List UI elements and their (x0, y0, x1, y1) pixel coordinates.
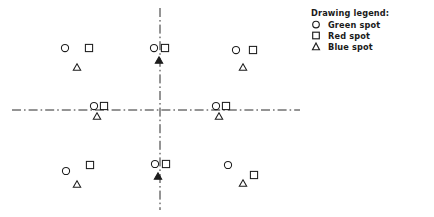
red-spot-marker (250, 171, 257, 178)
spot-cluster-bottom-right (224, 161, 257, 186)
circle-icon (311, 19, 325, 30)
blue-spot-marker (215, 113, 222, 120)
red-spot-marker (162, 160, 169, 167)
green-spot-marker (224, 161, 231, 168)
green-spot-marker (90, 102, 97, 109)
spot-cluster-middle-right (212, 102, 229, 119)
red-spot-marker (249, 46, 256, 53)
spot-cluster-middle-left (90, 102, 107, 119)
green-spot-marker (212, 102, 219, 109)
blue-spot-marker (73, 64, 80, 71)
square-icon (311, 30, 325, 41)
blue-spot-marker (154, 173, 161, 180)
legend-row-blue-spot: Blue spot (311, 41, 431, 52)
blue-spot-marker (73, 181, 80, 188)
red-spot-marker (85, 44, 92, 51)
green-spot-marker (150, 44, 157, 51)
legend-row-green-spot: Green spot (311, 19, 431, 30)
red-spot-marker (100, 102, 107, 109)
legend-title: Drawing legend: (311, 8, 431, 19)
legend-row-red-spot: Red spot (311, 30, 431, 41)
spot-cluster-top-right (232, 46, 256, 70)
green-spot-marker (151, 160, 158, 167)
green-spot-marker (61, 44, 68, 51)
green-spot-marker (62, 167, 69, 174)
red-spot-marker (222, 102, 229, 109)
blue-spot-marker (239, 180, 246, 187)
red-spot-marker (86, 161, 93, 168)
legend-label-blue-spot: Blue spot (325, 42, 373, 52)
blue-spot-marker (93, 113, 100, 120)
triangle-icon (311, 41, 325, 52)
drawing-legend: Drawing legend: Green spot Red spot Blue… (311, 8, 431, 52)
legend-label-green-spot: Green spot (325, 20, 380, 30)
spot-cluster-top-left (61, 44, 92, 70)
legend-label-red-spot: Red spot (325, 31, 370, 41)
spot-cluster-bottom-left (62, 161, 93, 187)
blue-spot-marker (239, 64, 246, 71)
red-spot-marker (161, 44, 168, 51)
green-spot-marker (232, 46, 239, 53)
blue-spot-marker (155, 57, 162, 64)
